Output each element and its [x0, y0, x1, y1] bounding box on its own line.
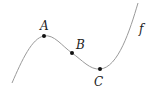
label-f: f: [138, 22, 146, 36]
function-graph: A B C f: [0, 0, 152, 95]
label-a: A: [39, 19, 49, 33]
label-b: B: [75, 38, 85, 52]
curve-f: [12, 3, 138, 83]
label-c: C: [94, 75, 103, 89]
point-c: [98, 67, 102, 71]
point-a: [42, 34, 46, 38]
point-b: [70, 51, 74, 55]
